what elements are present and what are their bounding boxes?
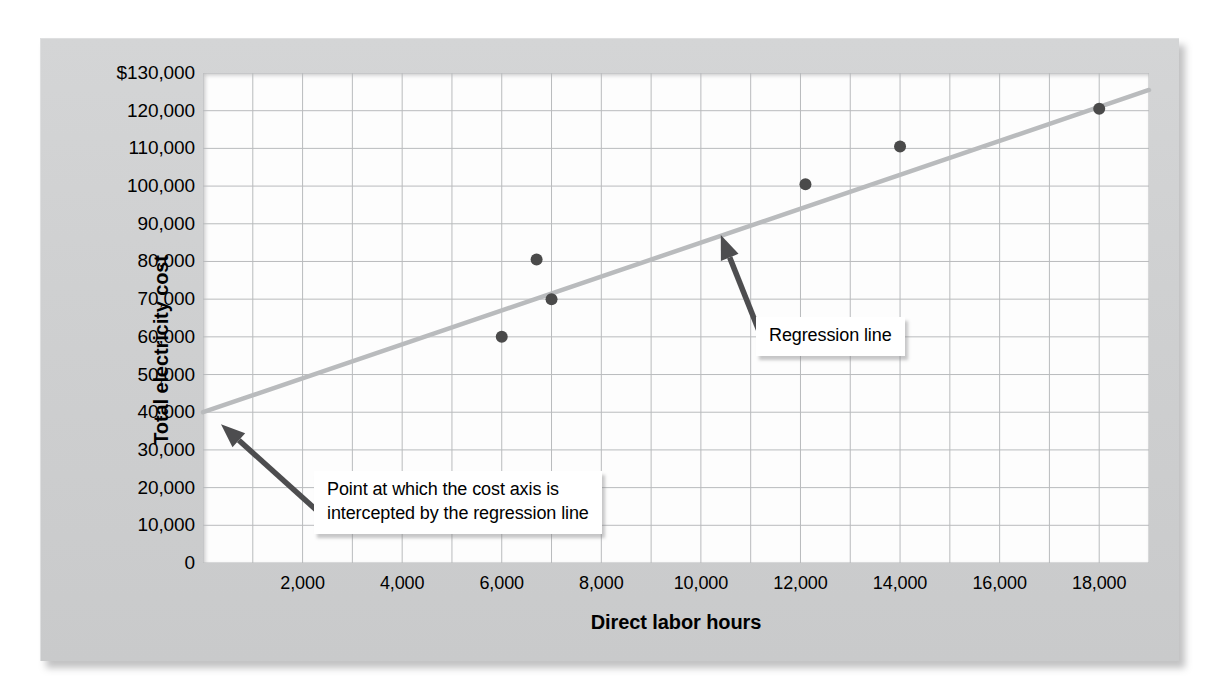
x-axis-tick-label: 2,000 [280,573,325,594]
y-axis-tick-label: 40,000 [45,401,195,423]
y-axis-tick-label: 90,000 [45,213,195,235]
y-axis-tick-label: 60,000 [45,326,195,348]
x-axis-title: Direct labor hours [203,611,1149,634]
x-axis-tick-label: 12,000 [773,573,827,594]
y-axis-tick-label: $130,000 [45,62,195,84]
y-axis-tick-label: 0 [45,552,195,574]
y-axis-tick-label: 110,000 [45,137,195,159]
y-axis-tick-label: 70,000 [45,288,195,310]
x-axis-tick-label: 14,000 [873,573,927,594]
x-axis-tick-label: 6,000 [479,573,524,594]
annotation-intercept: Point at which the cost axis is intercep… [314,471,602,534]
x-axis-tick-label: 4,000 [380,573,425,594]
annotation-regression-line: Regression line [756,317,905,356]
figure-panel: Total electricity cost $130,000120,00011… [40,38,1179,661]
y-axis-tick-label: 10,000 [45,514,195,536]
x-axis-tick-label: 18,000 [1072,573,1126,594]
y-axis-tick-label: 50,000 [45,364,195,386]
x-axis-tick-label: 16,000 [972,573,1026,594]
y-axis-tick-label: 120,000 [45,100,195,122]
x-axis-tick-label: 10,000 [674,573,728,594]
x-axis-tick-label: 8,000 [579,573,624,594]
y-axis-tick-label: 30,000 [45,439,195,461]
y-axis-tick-label: 100,000 [45,175,195,197]
y-axis-tick-label: 20,000 [45,477,195,499]
y-axis-tick-label: 80,000 [45,250,195,272]
